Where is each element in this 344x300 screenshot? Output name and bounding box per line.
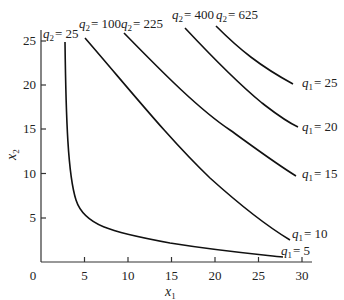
y-tick-25: 25 (23, 33, 36, 48)
x-tick-25: 25 (252, 268, 265, 283)
label-q1-20: q1= 20 (302, 119, 338, 136)
y-tick-labels: 5 10 15 20 25 (23, 33, 36, 225)
y-tick-15: 15 (23, 121, 36, 136)
y-axis-title: x2 (4, 149, 21, 161)
x-tick-5: 5 (81, 268, 88, 283)
x-tick-10: 10 (122, 268, 135, 283)
label-q1-15: q1= 15 (302, 166, 338, 183)
curve-q1-10 (85, 38, 290, 240)
isoquant-chart: 0 5 10 15 20 25 30 5 10 15 20 25 x1 x2 q… (0, 0, 344, 300)
label-q1-25: q1= 25 (302, 75, 338, 92)
label-q2-400: q2= 400 (172, 7, 214, 24)
label-q1-10: q1= 10 (292, 226, 328, 243)
label-q2-225: q2= 225 (121, 16, 163, 33)
x-tick-labels: 0 5 10 15 20 25 30 (30, 268, 309, 283)
label-q2-100: q2= 100 (79, 16, 121, 33)
y-tick-10: 10 (23, 166, 36, 181)
origin-label: 0 (30, 268, 37, 283)
curve-q1-5 (65, 42, 283, 257)
label-q2-625: q2= 625 (216, 7, 258, 24)
right-labels: q1= 25 q1= 20 q1= 15 q1= 10 q1= 5 (281, 75, 338, 260)
top-labels: q2= 25 q2= 100 q2= 225 q2= 400 q2= 625 (43, 7, 258, 43)
isoquant-curves (65, 26, 298, 257)
x-tick-15: 15 (165, 268, 178, 283)
x-tick-20: 20 (209, 268, 222, 283)
x-axis-title: x1 (164, 284, 176, 300)
y-tick-20: 20 (23, 77, 36, 92)
curve-q1-25 (216, 26, 293, 84)
x-tick-30: 30 (296, 268, 309, 283)
y-tick-5: 5 (30, 210, 37, 225)
label-q1-5: q1= 5 (281, 243, 310, 260)
label-q2-25: q2= 25 (43, 26, 79, 43)
